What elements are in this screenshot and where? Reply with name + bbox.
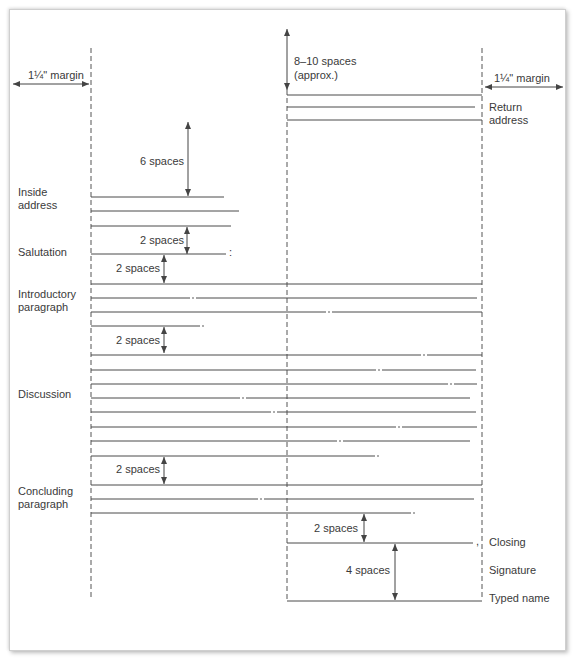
introductory-label-2: paragraph — [18, 301, 68, 313]
top-spacing-label: 8–10 spaces — [294, 55, 357, 67]
discussion-label: Discussion — [18, 388, 71, 400]
six-spaces-label: 6 spaces — [140, 155, 185, 167]
concluding-label-1: Concluding — [18, 485, 73, 497]
two-spaces-label-3: 2 spaces — [116, 334, 161, 346]
typed-name-label: Typed name — [489, 592, 550, 604]
closing-comma: , — [476, 535, 479, 547]
two-spaces-label-2: 2 spaces — [116, 262, 161, 274]
salutation-colon: : — [229, 246, 232, 258]
letter-layout-diagram: 1¼" margin 1¼" margin 8–10 spaces (appro… — [0, 0, 575, 658]
two-spaces-label-1: 2 spaces — [140, 234, 185, 246]
return-address-label-2: address — [489, 114, 529, 126]
left-margin-label: 1¼" margin — [28, 69, 84, 81]
two-spaces-label-5: 2 spaces — [314, 522, 359, 534]
inside-address-label-1: Inside — [18, 186, 47, 198]
signature-label: Signature — [489, 564, 536, 576]
right-margin-label: 1¼" margin — [494, 72, 550, 84]
inside-address-label-2: address — [18, 199, 58, 211]
concluding-label-2: paragraph — [18, 498, 68, 510]
introductory-label-1: Introductory — [18, 288, 77, 300]
salutation-label: Salutation — [18, 246, 67, 258]
top-spacing-sub-label: (approx.) — [294, 69, 338, 81]
return-address-label-1: Return — [489, 101, 522, 113]
four-spaces-label: 4 spaces — [346, 564, 391, 576]
two-spaces-label-4: 2 spaces — [116, 463, 161, 475]
closing-label: Closing — [489, 536, 526, 548]
